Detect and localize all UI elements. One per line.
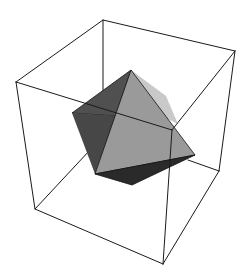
box-edge-right-vertical <box>219 51 235 171</box>
box-edge-left-vertical <box>16 82 35 209</box>
box-edge-top-back-left <box>16 20 103 82</box>
box-edge-bottom-front-right <box>163 171 219 264</box>
figure-canvas <box>0 0 245 278</box>
box-edge-bottom-back-right <box>188 160 219 171</box>
box-edge-back-bottom-left <box>35 150 90 209</box>
octahedron-figure <box>0 0 245 278</box>
box-edge-top-back-right <box>103 20 235 51</box>
octahedron <box>72 70 195 185</box>
box-edge-bottom-front-left <box>35 209 163 264</box>
